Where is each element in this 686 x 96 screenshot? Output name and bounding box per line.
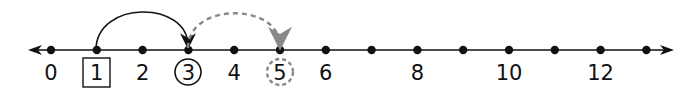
tick-dot: [642, 46, 650, 54]
tick-label: 3: [182, 61, 195, 85]
tick-label: 2: [136, 61, 149, 85]
tick-dot: [505, 46, 513, 54]
number-line-diagram: 012345681012: [0, 0, 686, 96]
tick-dot: [276, 46, 284, 54]
tick-label: 1: [90, 61, 103, 85]
tick-label: 4: [228, 61, 241, 85]
tick-dot: [230, 46, 238, 54]
tick-label: 0: [44, 61, 57, 85]
tick-dot: [367, 46, 375, 54]
tick-dot: [47, 46, 55, 54]
number-line-svg: 012345681012: [0, 0, 686, 96]
tick-dot: [413, 46, 421, 54]
tick-dot: [322, 46, 330, 54]
tick-dot: [596, 46, 604, 54]
tick-dot: [459, 46, 467, 54]
dashed-jump-arrow: [188, 13, 280, 48]
tick-dot: [138, 46, 146, 54]
tick-label: 8: [411, 61, 424, 85]
tick-label: 5: [273, 61, 286, 85]
tick-labels: 012345681012: [44, 61, 614, 85]
solid-jump-arrow: [96, 12, 188, 50]
tick-label: 6: [319, 61, 332, 85]
tick-dot: [551, 46, 559, 54]
tick-label: 10: [496, 61, 523, 85]
axis-line: [28, 45, 674, 55]
tick-label: 12: [587, 61, 614, 85]
